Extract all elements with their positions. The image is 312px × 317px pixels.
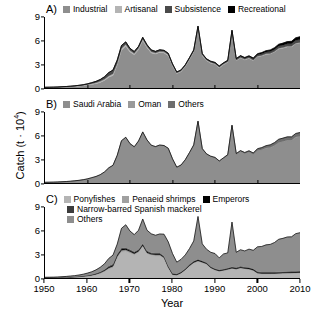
legend-swatch-saudi-arabia [63,101,70,108]
panel-a-area-chart [45,17,300,88]
legend-item-artisanal: Artisanal [115,4,158,14]
legend-swatch-recreational [228,6,235,13]
legend-swatch-ponyfishes [64,196,71,203]
legend-swatch-emperors [203,196,210,203]
x-tick-mark [87,85,88,89]
legend-label-ponyfishes: Ponyfishes [74,194,116,204]
y-tick-label: 3 [35,60,40,70]
legend-swatch-artisanal [115,6,122,13]
legend-label-others-b: Others [178,99,204,109]
x-tick-mark [129,180,130,184]
y-tick-label: 0 [35,84,40,94]
x-tick-mark [257,180,258,184]
legend-swatch-subsistence [165,6,172,13]
legend-item-others-c: Others [67,214,103,224]
legend-item-emperors: Emperors [203,194,250,204]
panel-a: 0369 A) Industrial Artisanal Subsistence [44,17,300,89]
legend-label-recreational: Recreational [238,4,286,14]
x-axis-label: Year [44,297,300,309]
x-tick-label: 2010 [289,284,310,294]
legend-item-subsistence: Subsistence [165,4,221,14]
y-tick-label: 6 [35,226,40,236]
legend-item-industrial: Industrial [63,4,108,14]
x-tick-mark [214,180,215,184]
legend-label-industrial: Industrial [73,4,108,14]
y-tick-mark [41,206,45,207]
y-tick-mark [41,40,45,41]
y-tick-label: 9 [35,12,40,22]
y-axis-label: Catch (t · 104) [13,90,26,200]
legend-label-penaeid-shrimps: Penaeid shrimps [132,194,195,204]
y-tick-mark [41,135,45,136]
x-tick-label: 1980 [161,284,182,294]
legend-label-oman: Oman [138,99,161,109]
x-tick-label: 1960 [76,284,97,294]
panel-a-id: A) [46,4,57,14]
area-series-industrial [45,28,300,88]
y-tick-mark [41,16,45,17]
legend-swatch-narrow-barred-spanish-mackerel [67,206,74,213]
y-tick-mark [41,111,45,112]
y-tick-mark [41,64,45,65]
x-tick-mark [87,180,88,184]
x-tick-mark [214,85,215,89]
y-tick-label: 3 [35,155,40,165]
legend-item-oman: Oman [128,99,161,109]
y-tick-mark [41,230,45,231]
legend-label-narrow-barred-spanish-mackerel: Narrow-barred Spanish mackerel [77,204,202,214]
panel-c: 0369 1950196019701980199020002010 C) Pon… [44,207,300,279]
legend-item-ponyfishes: Ponyfishes [64,194,116,204]
legend-item-narrow-barred-spanish-mackerel: Narrow-barred Spanish mackerel [67,204,202,214]
x-tick-label: 1990 [204,284,225,294]
panel-c-legend: C) Ponyfishes Penaeid shrimps Emperors [46,194,256,224]
y-tick-label: 9 [35,202,40,212]
legend-item-recreational: Recreational [228,4,286,14]
y-tick-mark [41,88,45,89]
legend-label-artisanal: Artisanal [125,4,158,14]
x-tick-label: 1950 [33,284,54,294]
y-tick-mark [41,254,45,255]
legend-label-saudi-arabia: Saudi Arabia [73,99,121,109]
x-tick-mark [257,85,258,89]
y-tick-label: 6 [35,36,40,46]
legend-swatch-oman [128,101,135,108]
panel-a-legend: A) Industrial Artisanal Subsistence Recr… [46,4,293,14]
legend-label-subsistence: Subsistence [175,4,221,14]
y-tick-label: 3 [35,250,40,260]
panel-a-plot-area [44,17,300,89]
panel-b-plot-area [44,112,300,184]
panel-c-id: C) [46,194,58,204]
legend-swatch-others-b [168,101,175,108]
panel-b-legend: B) Saudi Arabia Oman Others [46,99,211,109]
y-tick-mark [41,159,45,160]
legend-label-emperors: Emperors [213,194,250,204]
y-tick-label: 6 [35,131,40,141]
panel-b-area-chart [45,112,300,183]
x-tick-mark [172,85,173,89]
x-tick-mark [129,85,130,89]
legend-swatch-penaeid-shrimps [122,196,129,203]
x-tick-label: 2000 [247,284,268,294]
y-tick-label: 9 [35,107,40,117]
y-tick-mark [41,183,45,184]
legend-item-others-b: Others [168,99,204,109]
area-series-others [45,216,300,277]
legend-swatch-others-c [67,216,74,223]
legend-item-saudi-arabia: Saudi Arabia [63,99,121,109]
panel-b: 0369 B) Saudi Arabia Oman Others [44,112,300,184]
panel-b-id: B) [46,99,57,109]
figure-catch-by-sector: Catch (t · 104) 0369 A) Industrial Artis… [0,0,312,317]
x-tick-label: 1970 [119,284,140,294]
legend-item-penaeid-shrimps: Penaeid shrimps [122,194,195,204]
legend-label-others-c: Others [77,214,103,224]
y-axis-label-text: Catch (t · 104) [13,111,25,179]
legend-swatch-industrial [63,6,70,13]
area-series-saudi-arabia [45,122,300,183]
y-tick-label: 0 [35,179,40,189]
x-tick-mark [172,180,173,184]
